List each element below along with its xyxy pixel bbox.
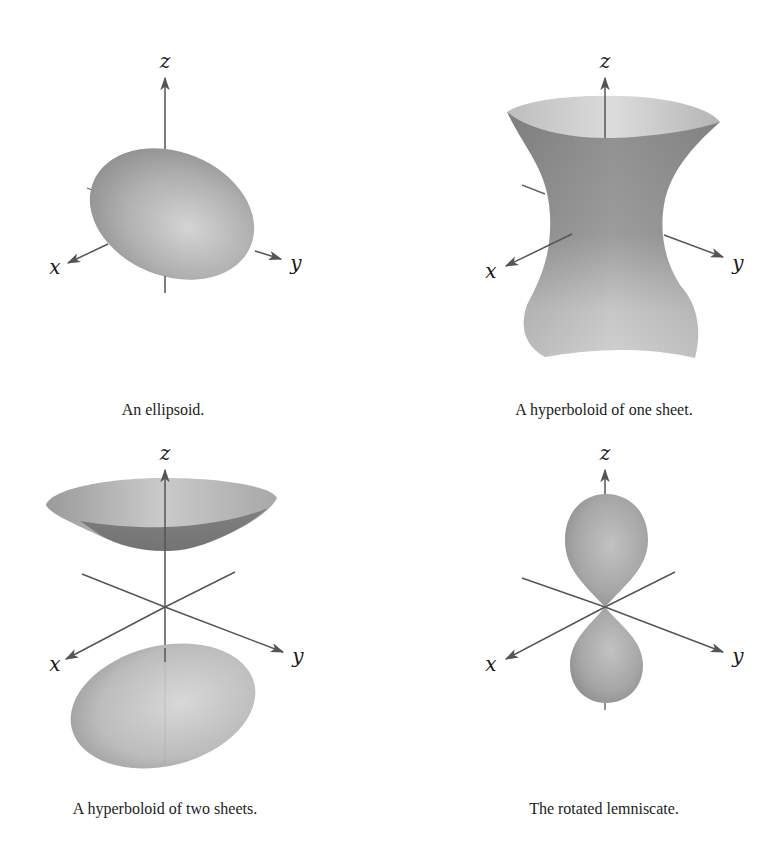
caption-hyperboloid-two-sheets: A hyperboloid of two sheets. — [73, 800, 257, 818]
x-axis-label: x — [485, 261, 496, 281]
z-axis-label: z — [160, 51, 171, 71]
ellipsoid-plot — [68, 78, 281, 303]
surface-plots — [0, 0, 776, 845]
rotated-lemniscate-plot — [506, 470, 723, 710]
x-axis-label: x — [49, 654, 60, 674]
ellipsoid-surface — [70, 125, 274, 304]
x-axis-back — [165, 572, 235, 607]
caption-ellipsoid: An ellipsoid. — [122, 401, 205, 419]
caption-hyperboloid-one-sheet: A hyperboloid of one sheet. — [515, 401, 692, 419]
x-axis — [68, 244, 108, 263]
x-axis-label: x — [49, 257, 60, 277]
caption-rotated-lemniscate: The rotated lemniscate. — [529, 800, 679, 818]
y-axis-label: y — [290, 253, 301, 273]
x-axis-label: x — [485, 654, 496, 674]
lower-sheet — [57, 625, 268, 787]
z-axis-label: z — [600, 51, 611, 71]
z-axis-label: z — [600, 443, 611, 463]
y-axis-back — [82, 574, 165, 607]
z-axis-label: z — [160, 443, 171, 463]
y-axis-label: y — [732, 253, 743, 273]
upper-lobe — [565, 494, 648, 607]
hyperboloid-one-sheet-plot — [506, 78, 723, 358]
figure-grid: z x y z x y z x y z x y An ellipsoid. A … — [0, 0, 776, 845]
y-axis — [255, 251, 281, 259]
lower-lobe — [570, 607, 643, 703]
hyperboloid-two-sheets-plot — [46, 470, 283, 787]
y-axis-label: y — [292, 646, 303, 666]
y-axis-label: y — [732, 646, 743, 666]
y-axis — [664, 235, 723, 257]
x-axis-back — [522, 185, 545, 194]
